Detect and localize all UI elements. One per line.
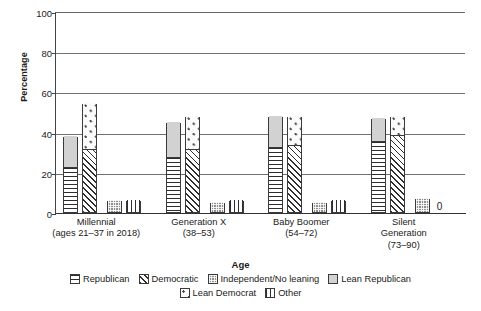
legend-label: Lean Democrat [193,288,257,298]
bar-segment-republican [269,148,282,212]
bar-segment-other [230,200,243,212]
bar-democratic-stack [185,117,200,213]
legend-row-secondary: Lean DemocratOther [0,286,481,300]
y-axis-tick-label: 80 [41,48,52,59]
bar-republican-stack [268,117,283,213]
bar-segment-republican [64,168,77,212]
legend-label: Other [278,288,301,298]
y-axis-tick-label: 40 [41,128,52,139]
x-axis-line [55,213,466,214]
y-axis-tick-mark [52,214,56,215]
legend-swatch-icon [265,288,275,298]
x-axis-category-line: (38–53) [148,228,251,239]
bar-segment-other [127,200,140,212]
bar-democratic-stack [287,117,302,213]
y-axis-tick-label: 20 [41,168,52,179]
bar-segment-lean-republican [269,116,282,148]
x-axis-category-line: (73–90) [353,240,456,251]
bar-group [56,13,159,213]
x-axis-category-label: Baby Boomer(54–72) [250,217,353,240]
bar-segment-independent [211,202,224,212]
bar-group [159,13,262,213]
legend-swatch-icon [328,274,338,284]
bar-republican-stack [166,123,181,213]
bar-group [261,13,364,213]
bar-segment-lean-republican [64,136,77,168]
legend-swatch-icon [139,274,149,284]
bar-segment-lean-republican [167,122,180,158]
bar-independent [312,203,327,213]
bar-other [229,201,244,213]
y-axis-title: Percentage [19,17,29,137]
bar-democratic-stack [82,104,97,213]
legend-item[interactable]: Other [265,288,301,298]
x-axis-category-line: Millennial [45,217,148,228]
bar-segment-democratic [83,150,96,212]
legend-swatch-icon [180,288,190,298]
bar-segment-republican [167,158,180,212]
legend-item[interactable]: Republican [70,274,130,284]
bar-segment-lean-democrat [83,103,96,149]
legend-label: Republican [83,274,130,284]
legend-swatch-icon [208,274,218,284]
bar-independent [210,203,225,213]
bar-independent [415,199,430,213]
legend-label: Independent/No leaning [221,274,320,284]
bar-segment-republican [372,142,385,212]
bar-segment-democratic [186,150,199,212]
legend-label: Lean Republican [341,274,411,284]
bar-segment-lean-democrat [186,116,199,150]
legend-label: Democratic [152,274,199,284]
legend-row-primary: RepublicanDemocraticIndependent/No leani… [0,272,481,286]
legend-swatch-icon [70,274,80,284]
x-axis-category-line: (ages 21–37 in 2018) [45,228,148,239]
bar-republican-stack [371,119,386,213]
bar-segment-lean-democrat [391,116,404,136]
x-axis-category-label: SilentGeneration(73–90) [353,217,456,251]
bar-chart-figure: Percentage 0204060801000 Millennial(ages… [0,0,481,311]
plot-area: 0204060801000 [55,12,465,213]
bar-segment-democratic [391,136,404,212]
bar-segment-independent [313,202,326,212]
x-axis-category-line: Generation X [148,217,251,228]
bar-independent [107,201,122,213]
x-axis-category-line: Generation [353,228,456,239]
x-axis-category-label: Generation X(38–53) [148,217,251,240]
legend-item[interactable]: Independent/No leaning [208,274,320,284]
legend-item[interactable]: Lean Republican [328,274,411,284]
bar-democratic-stack [390,117,405,213]
bar-segment-lean-democrat [288,116,301,146]
bar-segment-democratic [288,146,301,212]
x-axis-category-line: Baby Boomer [250,217,353,228]
legend-item[interactable]: Democratic [139,274,199,284]
y-axis-tick-label: 60 [41,88,52,99]
bar-segment-other [332,200,345,212]
bar-other [331,201,346,213]
x-axis-category-label: Millennial(ages 21–37 in 2018) [45,217,148,240]
x-axis-category-line: (54–72) [250,228,353,239]
y-axis-tick-label: 100 [36,8,52,19]
bar-segment-lean-republican [372,118,385,142]
bar-segment-independent [108,200,121,212]
zero-value-label: 0 [437,201,443,212]
legend-item[interactable]: Lean Democrat [180,288,257,298]
bar-group: 0 [364,13,467,213]
x-axis-category-line: Silent [353,217,456,228]
chart-legend: RepublicanDemocraticIndependent/No leani… [0,272,481,300]
bar-segment-independent [416,198,429,212]
x-axis-title: Age [0,259,481,270]
bar-other [126,201,141,213]
bar-republican-stack [63,137,78,213]
